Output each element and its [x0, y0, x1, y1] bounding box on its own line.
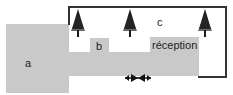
label-a: a	[25, 58, 31, 69]
outline-top	[68, 6, 227, 8]
tree-icon	[197, 9, 213, 37]
outline-bottom	[198, 76, 227, 78]
tree-icon	[70, 9, 86, 37]
label-b: b	[96, 41, 102, 52]
label-reception: réception	[152, 40, 197, 51]
tree-icon	[122, 9, 138, 37]
zone-a	[6, 24, 69, 93]
label-c: c	[157, 17, 163, 28]
converging-arrows-icon	[123, 73, 153, 83]
outline-right	[225, 6, 227, 77]
